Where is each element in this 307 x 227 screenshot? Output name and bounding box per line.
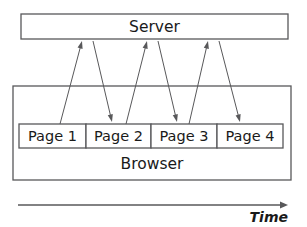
page-label: Page 4 xyxy=(226,128,275,144)
browser-label: Browser xyxy=(121,155,184,173)
time-axis-label: Time xyxy=(250,209,288,225)
page-label: Page 2 xyxy=(94,128,143,144)
page-label: Page 3 xyxy=(160,128,209,144)
server-browser-lifecycle-diagram: Server Browser Page 1Page 2Page 3Page 4 … xyxy=(0,0,307,227)
arrow-up-icon xyxy=(204,41,209,49)
page-boxes-group: Page 1Page 2Page 3Page 4 xyxy=(19,124,283,148)
arrow-up-icon xyxy=(78,41,83,49)
server-node: Server xyxy=(21,14,288,39)
server-label: Server xyxy=(129,18,180,36)
arrow-up-icon xyxy=(143,41,148,49)
time-axis: Time xyxy=(18,202,288,225)
time-axis-arrow-icon xyxy=(280,202,288,209)
diagram-canvas: Server Browser Page 1Page 2Page 3Page 4 … xyxy=(0,0,307,227)
page-label: Page 1 xyxy=(28,128,77,144)
